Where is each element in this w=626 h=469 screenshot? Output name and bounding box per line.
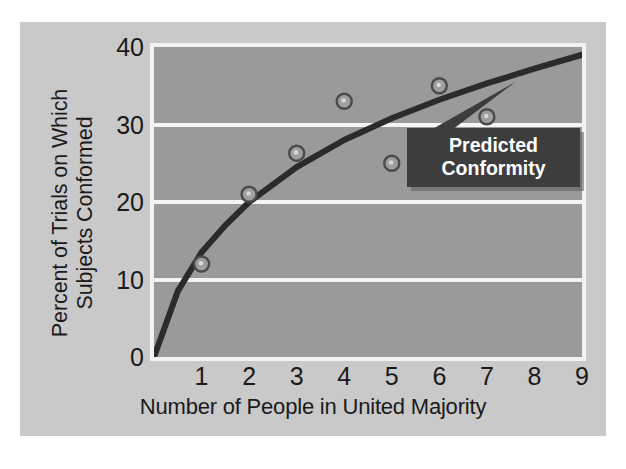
data-point-highlight — [294, 150, 299, 155]
chart-canvas — [154, 47, 582, 357]
predicted-conformity-callout: Predicted Conformity — [407, 128, 580, 187]
data-point-highlight — [484, 114, 489, 119]
x-axis-label: Number of People in United Majority — [20, 394, 606, 420]
data-point-highlight — [341, 98, 346, 103]
y-tick-label: 40 — [100, 35, 144, 60]
x-tick-label: 3 — [282, 364, 312, 389]
x-tick-label: 8 — [519, 364, 549, 389]
x-tick-label: 6 — [424, 364, 454, 389]
plot-inner — [154, 47, 582, 357]
predicted-conformity-curve — [154, 55, 582, 357]
data-point-highlight — [246, 191, 251, 196]
x-tick-label: 5 — [377, 364, 407, 389]
callout-line-1: Predicted — [417, 134, 570, 157]
x-tick-label: 2 — [234, 364, 264, 389]
x-axis-ticks: 123456789 — [150, 364, 586, 396]
data-point-highlight — [436, 83, 441, 88]
plot-area — [150, 43, 586, 361]
y-tick-label: 10 — [100, 267, 144, 292]
chart-figure: Percent of Trials on Which Subjects Conf… — [20, 22, 606, 436]
x-tick-label: 4 — [329, 364, 359, 389]
callout-line-2: Conformity — [417, 157, 570, 180]
y-tick-label: 20 — [100, 190, 144, 215]
y-tick-label: 0 — [100, 345, 144, 370]
x-tick-label: 7 — [472, 364, 502, 389]
y-axis-label-line-1: Percent of Trials on Which — [48, 89, 73, 337]
data-point-highlight — [389, 160, 394, 165]
y-tick-label: 30 — [100, 112, 144, 137]
x-tick-label: 1 — [187, 364, 217, 389]
y-axis-ticks: 010203040 — [94, 22, 144, 436]
x-tick-label: 9 — [567, 364, 597, 389]
data-point-highlight — [199, 261, 204, 266]
